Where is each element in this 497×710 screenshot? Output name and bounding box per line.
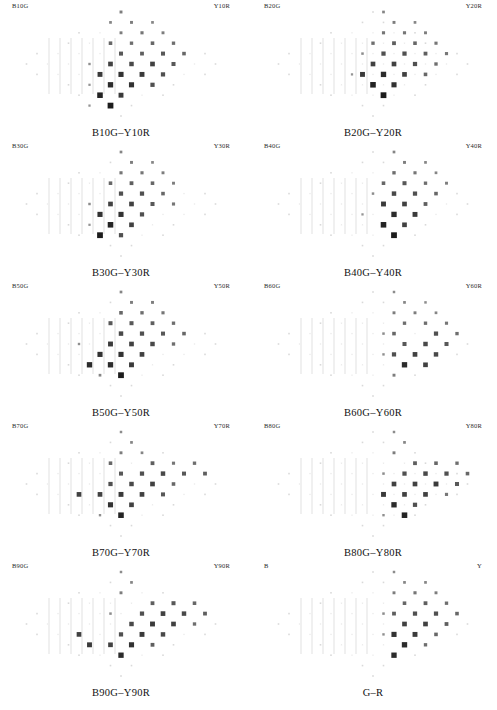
data-point <box>434 611 438 615</box>
data-point <box>413 591 416 594</box>
data-point <box>182 332 186 336</box>
panel-b20g-y20r: B20GY20RB20G–Y20R <box>252 0 494 142</box>
data-point <box>402 51 406 55</box>
data-point <box>193 462 196 465</box>
panel-b10g-y10r: B10GY10RB10G–Y10R <box>0 0 242 142</box>
data-point <box>172 322 175 325</box>
data-point <box>423 622 428 627</box>
data-point <box>99 374 102 377</box>
faint-vertical-lines <box>301 458 367 514</box>
data-point <box>98 72 103 77</box>
data-point <box>119 492 124 497</box>
panel-title: B70G–Y70R <box>0 547 242 558</box>
data-point <box>161 311 164 314</box>
data-point <box>150 202 154 206</box>
data-point <box>381 202 386 207</box>
data-point <box>118 212 123 217</box>
data-point <box>455 332 458 335</box>
data-point <box>130 42 133 45</box>
faint-vertical-lines <box>301 178 367 234</box>
data-point <box>88 203 90 205</box>
data-point <box>151 41 155 45</box>
data-point <box>403 601 407 605</box>
data-point <box>392 41 396 45</box>
data-point <box>172 42 175 45</box>
data-point <box>402 72 407 77</box>
data-point <box>129 622 133 626</box>
data-point <box>403 581 406 584</box>
data-point <box>108 103 114 109</box>
data-point <box>392 612 396 616</box>
panel-title: B10G–Y10R <box>0 127 242 138</box>
data-point <box>403 441 406 444</box>
data-point <box>382 332 384 334</box>
data-point <box>109 181 113 185</box>
data-point <box>162 31 165 34</box>
data-point <box>413 212 418 217</box>
faint-vertical-lines <box>301 38 367 94</box>
data-point <box>150 62 155 67</box>
data-point <box>140 72 145 77</box>
data-point <box>351 73 353 75</box>
data-point <box>413 611 417 615</box>
data-markers <box>88 11 185 109</box>
data-markers <box>351 11 448 98</box>
data-point <box>130 581 133 584</box>
data-point <box>120 451 123 454</box>
faint-vertical-lines <box>49 178 115 234</box>
data-point <box>393 291 395 293</box>
lattice-plot <box>252 288 494 400</box>
data-point <box>129 642 134 647</box>
data-point <box>129 482 133 486</box>
data-point <box>119 632 123 636</box>
faint-vertical-lines <box>301 318 367 374</box>
data-point <box>162 171 165 174</box>
data-point <box>413 352 418 357</box>
data-point <box>129 222 134 227</box>
data-point <box>151 21 154 24</box>
data-point <box>391 632 396 637</box>
panel-title: B60G–Y60R <box>252 407 494 418</box>
panel-g-r: BYG–R <box>252 560 494 702</box>
data-point <box>108 642 113 647</box>
data-point <box>172 462 175 465</box>
data-point <box>193 601 197 605</box>
data-point <box>402 471 406 475</box>
data-point <box>455 482 459 486</box>
data-point <box>381 222 387 228</box>
data-point <box>393 591 396 594</box>
data-point <box>435 171 438 174</box>
panel-title: B40G–Y40R <box>252 267 494 278</box>
data-point <box>361 213 363 215</box>
data-point <box>382 514 384 516</box>
data-point <box>108 321 112 325</box>
data-point <box>455 612 459 616</box>
data-point <box>444 342 448 346</box>
data-point <box>119 311 123 315</box>
figure-root: B10GY10RB10G–Y10RB20GY20RB20G–Y20RB30GY3… <box>0 0 497 710</box>
data-point <box>413 632 418 637</box>
data-point <box>77 632 82 637</box>
data-point <box>129 321 133 325</box>
data-point <box>403 301 406 304</box>
data-point <box>108 62 113 67</box>
data-point <box>393 151 396 154</box>
data-point <box>151 301 154 304</box>
data-point <box>119 233 123 237</box>
data-point <box>150 83 154 87</box>
data-point <box>435 591 438 594</box>
data-point <box>118 512 124 518</box>
data-point <box>119 171 122 174</box>
data-point <box>393 21 396 24</box>
data-point <box>371 62 376 67</box>
panel-title: B30G–Y30R <box>0 267 242 278</box>
data-point <box>402 512 408 518</box>
data-point <box>391 212 396 217</box>
data-point <box>402 222 407 227</box>
data-point <box>393 374 396 377</box>
data-point <box>413 171 416 174</box>
panel-b50g-y50r: B50GY50RB50G–Y50R <box>0 280 242 422</box>
data-point <box>119 331 123 335</box>
lattice-background <box>278 291 469 397</box>
panel-title: B80G–Y80R <box>252 547 494 558</box>
